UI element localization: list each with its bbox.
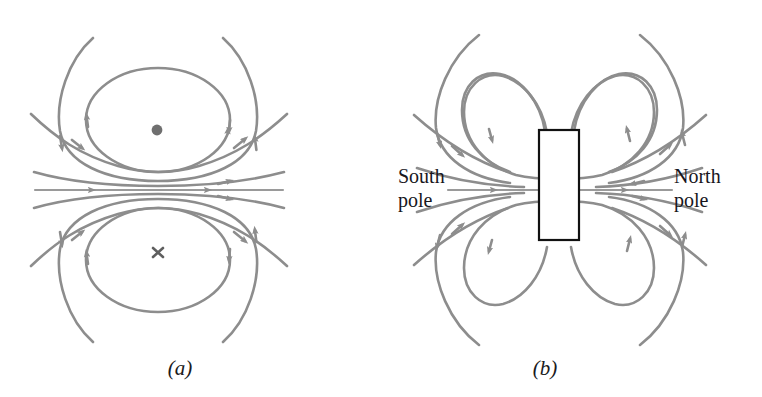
panel-b: South pole North pole (b) bbox=[398, 35, 721, 380]
field-line-inner-loop-upper bbox=[86, 68, 230, 172]
field-line-outermost-arc-upper bbox=[34, 172, 284, 186]
magnetic-field-diagram: (a) bbox=[0, 0, 762, 397]
field-arrow-inner-lower-right-b bbox=[627, 239, 630, 251]
bar-magnet bbox=[539, 130, 579, 240]
north-pole-label-line2: pole bbox=[674, 189, 709, 212]
field-arrow-inner-upper-left-b bbox=[489, 129, 492, 140]
current-out-of-page-dot-icon bbox=[152, 125, 163, 136]
field-line-outer-arc-lower bbox=[31, 208, 287, 266]
south-pole-label-line2: pole bbox=[398, 189, 433, 212]
field-arrow-inner-lower-left bbox=[87, 253, 89, 264]
field-arrow-inner-upper-right bbox=[229, 120, 230, 131]
field-line-outer-arc-upper bbox=[31, 114, 287, 172]
field-arrow-inner-lower-right bbox=[229, 249, 230, 260]
field-line-inner-loop-lower bbox=[86, 208, 230, 312]
field-arrow-inner-upper-left bbox=[87, 116, 89, 127]
south-pole-label-line1: South bbox=[398, 165, 445, 187]
field-arrow-inner-upper-right-b bbox=[627, 129, 630, 141]
panel-a: (a) bbox=[31, 38, 287, 380]
panel-a-caption: (a) bbox=[168, 356, 193, 380]
current-into-page-cross-icon bbox=[153, 248, 163, 257]
panel-a-upper-field-lines bbox=[31, 38, 287, 186]
north-pole-label-line1: North bbox=[674, 165, 721, 187]
panel-a-lower-field-lines bbox=[31, 194, 287, 342]
field-line-outermost-arc-lower bbox=[34, 194, 284, 208]
field-arrow-inner-lower-left-b bbox=[489, 240, 492, 251]
panel-b-caption: (b) bbox=[533, 356, 558, 380]
